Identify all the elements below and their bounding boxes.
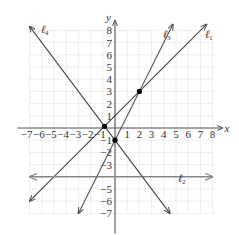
y-tick-label: 7 [107, 37, 113, 49]
y-tick-label: 8 [107, 24, 113, 36]
x-axis-label: x [224, 122, 230, 134]
y-tick-label: 3 [107, 85, 113, 97]
x-tick-label: 6 [185, 128, 191, 140]
x-tick-label: −4 [57, 128, 69, 140]
x-tick-label: 1 [124, 128, 130, 140]
x-tick-label: 4 [161, 128, 167, 140]
intersection-point [102, 124, 107, 129]
y-tick-label: −2 [100, 146, 112, 158]
x-tick-label: 8 [210, 128, 216, 140]
x-tick-label: 3 [149, 128, 155, 140]
intersection-point [112, 138, 117, 143]
y-tick-label: −7 [100, 207, 112, 219]
y-tick-label: 5 [107, 61, 113, 73]
y-tick-label: −1 [100, 134, 112, 146]
line-label-subscript: 4 [45, 29, 49, 37]
y-tick-label: 4 [107, 73, 113, 85]
y-tick-label: −3 [100, 159, 112, 171]
line-3 [78, 24, 173, 213]
intersection-point [137, 89, 142, 94]
y-axis-label: y [105, 11, 111, 23]
x-tick-label: −7 [21, 128, 33, 140]
line-label-subscript: 1 [209, 34, 213, 42]
x-tick-label: 7 [198, 128, 204, 140]
line-label-subscript: 2 [182, 178, 186, 186]
y-tick-label: −5 [100, 183, 112, 195]
x-tick-label: −3 [70, 128, 82, 140]
x-tick-label: 2 [137, 128, 143, 140]
x-tick-label: 5 [173, 128, 179, 140]
y-tick-label: 2 [107, 98, 113, 110]
line-label-subscript: 3 [167, 34, 171, 42]
x-tick-label: −2 [82, 128, 94, 140]
x-tick-label: −5 [45, 128, 57, 140]
y-tick-label: −6 [100, 195, 112, 207]
y-tick-label: 6 [107, 49, 113, 61]
x-tick-label: −6 [33, 128, 45, 140]
coordinate-plane: −7−6−5−4−3−2−112345678−7−6−5−3−2−1123456… [0, 0, 239, 235]
